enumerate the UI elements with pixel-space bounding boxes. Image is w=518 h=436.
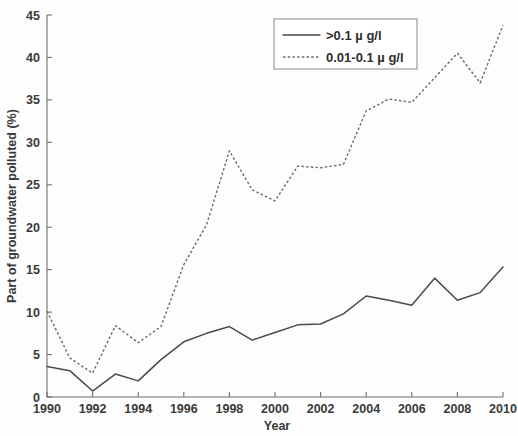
y-axis-title: Part of groundwater polluted (%) xyxy=(5,109,19,303)
y-tick-label: 45 xyxy=(26,9,40,23)
x-tick-label: 2000 xyxy=(261,402,289,416)
y-tick-label: 5 xyxy=(33,348,40,362)
x-tick-label: 2004 xyxy=(352,402,380,416)
x-axis-title: Year xyxy=(264,419,291,433)
chart-figure: 051015202530354045 199019921994199619982… xyxy=(0,0,518,436)
series-line-2 xyxy=(47,25,503,373)
x-tick-label: 2006 xyxy=(398,402,426,416)
y-tick-label: 35 xyxy=(26,93,40,107)
x-tick-label: 1992 xyxy=(79,402,107,416)
chart-legend: >0.1 µ g/l0.01-0.1 µ g/l xyxy=(274,19,417,69)
y-tick-label: 40 xyxy=(26,51,40,65)
y-tick-label: 15 xyxy=(26,263,40,277)
x-tick-label: 1994 xyxy=(124,402,152,416)
x-tick-label: 2002 xyxy=(307,402,335,416)
legend-label-1: >0.1 µ g/l xyxy=(326,28,382,43)
x-axis: 1990199219941996199820002002200420062008… xyxy=(33,392,517,416)
y-tick-label: 25 xyxy=(26,178,40,192)
x-tick-label: 1996 xyxy=(170,402,198,416)
line-chart-canvas: 051015202530354045 199019921994199619982… xyxy=(0,0,518,436)
x-tick-label: 1990 xyxy=(33,402,61,416)
x-tick-label: 2010 xyxy=(489,402,517,416)
data-series-group xyxy=(47,25,503,391)
y-tick-label: 20 xyxy=(26,221,40,235)
y-tick-label: 30 xyxy=(26,136,40,150)
legend-label-2: 0.01-0.1 µ g/l xyxy=(326,50,404,65)
x-tick-label: 2008 xyxy=(443,402,471,416)
y-axis: 051015202530354045 xyxy=(26,9,52,405)
x-tick-label: 1998 xyxy=(215,402,243,416)
y-tick-label: 10 xyxy=(26,306,40,320)
series-line-1 xyxy=(47,267,503,391)
